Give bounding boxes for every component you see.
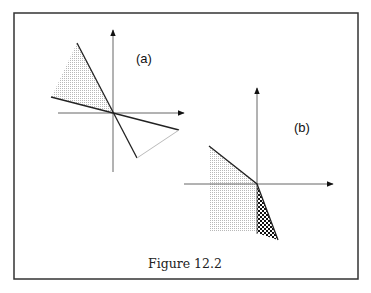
panel-b: (b): [184, 88, 333, 240]
figure-caption: Figure 12.2: [148, 256, 222, 271]
panel-b-shaded-region: [209, 146, 257, 232]
panel-b-label: (b): [294, 120, 310, 135]
panel-a-label: (a): [136, 51, 152, 66]
figure-canvas: (a) (b) Figure 12.2: [0, 0, 371, 293]
panel-a: (a): [51, 30, 184, 172]
panel-a-closing-segment: [137, 130, 179, 158]
figure-frame: [14, 13, 358, 279]
